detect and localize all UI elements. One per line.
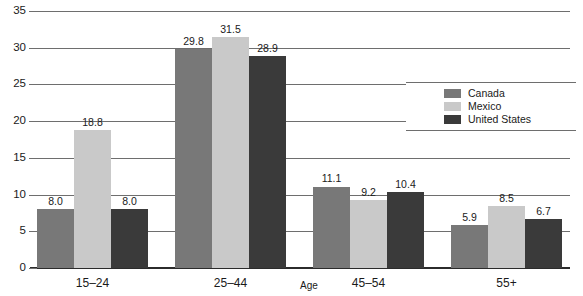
bar[interactable] [175,49,212,268]
y-tick-label: 20 [0,115,26,127]
x-tick-label: 25–44 [175,277,286,289]
y-tick-label-text: 30 [2,42,26,54]
bar-value-label: 8.0 [111,196,148,207]
y-tick-label-text: 35 [2,5,26,17]
gridline [37,11,570,12]
bar-value-label: 18.8 [74,117,111,128]
y-tick-mark [29,11,37,12]
bar[interactable] [249,56,286,268]
y-tick-label-text: 15 [2,152,26,164]
bar[interactable] [313,187,350,269]
legend-swatch-icon [444,115,461,124]
bar[interactable] [488,206,525,268]
y-tick-label: 5 [0,225,26,237]
legend-label: United States [468,114,531,125]
bar-value-label: 11.1 [313,173,350,184]
bar[interactable] [451,225,488,268]
y-tick-label: 25 [0,78,26,90]
bar-value-label: 8.0 [37,196,74,207]
legend-swatch-icon [444,89,461,98]
x-axis-title: Age [300,281,318,291]
bar[interactable] [525,219,562,268]
bar[interactable] [74,130,111,268]
y-tick-label-text: 5 [2,225,26,237]
bar[interactable] [212,37,249,268]
gridline [37,158,570,159]
y-tick-label: 15 [0,152,26,164]
x-tick-label: 55+ [451,277,562,289]
legend-swatch-icon [444,102,461,111]
gridline [37,48,570,49]
y-tick-label: 30 [0,42,26,54]
y-tick-label: 10 [0,189,26,201]
bar[interactable] [387,192,424,268]
legend-item[interactable]: United States [406,113,576,126]
y-tick-mark [29,48,37,49]
legend-label: Canada [468,88,505,99]
bar-value-label: 9.2 [350,187,387,198]
y-tick-label: 35 [0,5,26,17]
bar[interactable] [350,200,387,268]
x-tick-label: 45–54 [313,277,424,289]
y-tick-mark [29,121,37,122]
bar-value-label: 29.8 [175,36,212,47]
y-tick-mark [29,158,37,159]
legend: CanadaMexicoUnited States [406,82,576,131]
y-tick-label: 0 [0,262,26,274]
y-tick-label-text: 0 [2,262,26,274]
bar-value-label: 28.9 [249,43,286,54]
y-tick-label-text: 20 [2,115,26,127]
y-tick-mark [29,231,37,232]
x-tick-label: 15–24 [37,277,148,289]
legend-label: Mexico [468,101,501,112]
y-tick-label-text: 25 [2,78,26,90]
legend-item[interactable]: Canada [406,87,576,100]
y-tick-mark [29,195,37,196]
y-tick-mark [29,84,37,85]
bar-value-label: 10.4 [387,179,424,190]
bar[interactable] [37,209,74,268]
bar-chart: 05101520253035 8.018.88.029.831.528.911.… [0,0,583,296]
bar-value-label: 8.5 [488,193,525,204]
y-tick-mark [29,268,37,269]
bar-value-label: 31.5 [212,24,249,35]
bar-value-label: 6.7 [525,206,562,217]
y-tick-label-text: 10 [2,189,26,201]
bar[interactable] [111,209,148,268]
legend-item[interactable]: Mexico [406,100,576,113]
bar-value-label: 5.9 [451,212,488,223]
